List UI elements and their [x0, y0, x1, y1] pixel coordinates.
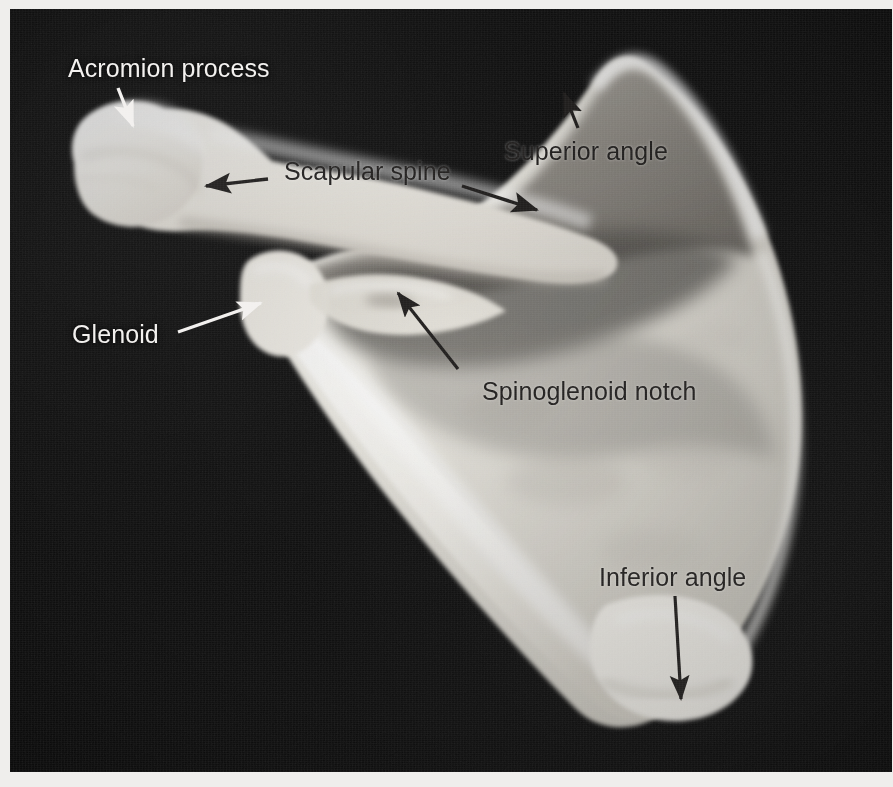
- label-scapular-spine: Scapular spine: [284, 157, 451, 186]
- label-spinoglenoid-notch: Spinoglenoid notch: [482, 377, 696, 406]
- label-glenoid: Glenoid: [72, 320, 159, 349]
- label-inferior-angle: Inferior angle: [599, 563, 746, 592]
- label-acromion-process: Acromion process: [68, 54, 270, 83]
- page-margin-left: [0, 0, 10, 787]
- photograph-plate: [10, 9, 892, 772]
- page-margin-top: [0, 0, 893, 9]
- label-superior-angle: Superior angle: [504, 137, 668, 166]
- scapula-bone-image: [10, 9, 892, 772]
- anatomy-figure: Acromion process Scapular spine Superior…: [0, 0, 893, 787]
- page-margin-bottom: [0, 772, 893, 787]
